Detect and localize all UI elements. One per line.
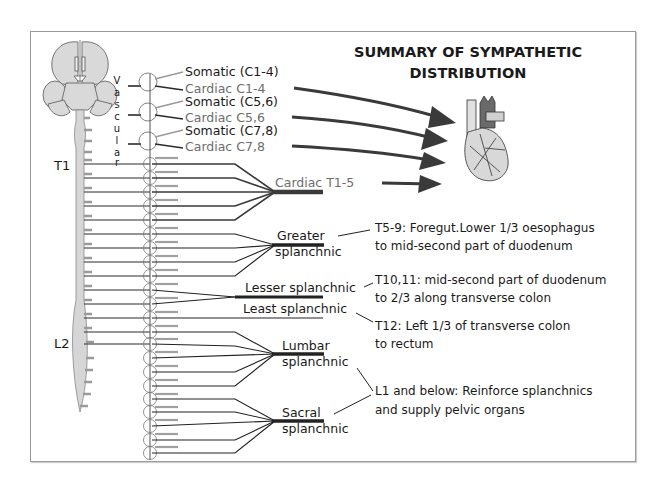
label-cardiac-c7-8: Cardiac C7,8 <box>185 139 265 154</box>
label-least: Least splanchnic <box>243 301 347 316</box>
desc-pelvic-1: L1 and below: Reinforce splanchnics <box>375 384 593 398</box>
vascular-branches <box>128 86 141 144</box>
brain-icon <box>43 40 117 116</box>
label-cardiac-t1-5: Cardiac T1-5 <box>275 175 354 190</box>
desc-pelvic-2: and supply pelvic organs <box>375 403 525 417</box>
desc-lesser-2: to 2/3 along transverse colon <box>375 291 551 305</box>
label-sacral-1: Sacral <box>282 405 321 420</box>
spinal-cord <box>73 110 88 412</box>
label-l2: L2 <box>54 336 70 351</box>
desc-lesser-1: T10,11: mid-second part of duodenum <box>374 273 606 287</box>
heart-icon <box>465 96 508 181</box>
svg-text:r: r <box>115 157 120 168</box>
title-line-2: DISTRIBUTION <box>410 65 527 81</box>
svg-text:a: a <box>114 87 120 98</box>
desc-greater-1: T5-9: Foregut.Lower 1/3 oesophagus <box>374 221 595 235</box>
svg-text:s: s <box>114 99 119 110</box>
label-somatic-c5-6: Somatic (C5,6) <box>185 94 278 109</box>
cardiac-arrows <box>292 88 438 184</box>
desc-least-1: T12: Left 1/3 of transverse colon <box>374 319 570 333</box>
vascular-label: V a s c u l a r <box>114 75 121 168</box>
label-lesser: Lesser splanchnic <box>245 280 356 295</box>
label-sacral-2: splanchnic <box>282 421 349 436</box>
cervical-branches <box>155 72 183 148</box>
svg-text:V: V <box>114 75 121 86</box>
label-greater-2: splanchnic <box>275 244 342 259</box>
desc-greater-2: to mid-second part of duodenum <box>375 239 573 253</box>
label-greater-1: Greater <box>277 228 325 243</box>
svg-text:c: c <box>114 111 120 122</box>
label-t1: T1 <box>53 158 70 173</box>
desc-least-2: to rectum <box>375 337 434 351</box>
svg-text:l: l <box>116 135 119 146</box>
arrow-icon <box>418 106 456 193</box>
label-lumbar-1: Lumbar <box>282 338 330 353</box>
sympathetic-diagram: SUMMARY OF SYMPATHETIC DISTRIBUTION T1 L… <box>0 0 667 485</box>
cervical-ganglia <box>139 73 157 150</box>
svg-text:u: u <box>114 123 120 134</box>
preganglionic-fibers <box>84 164 150 344</box>
label-somatic-c7-8: Somatic (C7,8) <box>185 123 278 138</box>
title-line-1: SUMMARY OF SYMPATHETIC <box>354 44 582 60</box>
label-somatic-c1-4: Somatic (C1-4) <box>185 64 279 79</box>
label-lumbar-2: splanchnic <box>282 354 349 369</box>
